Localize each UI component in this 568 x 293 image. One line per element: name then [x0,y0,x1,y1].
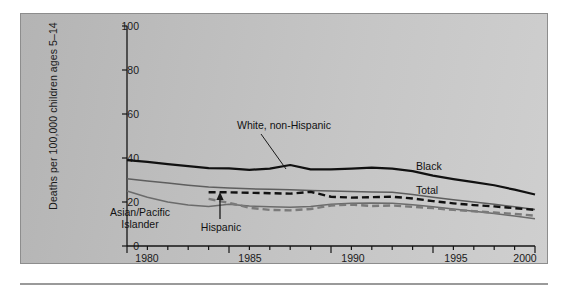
series-line-asian-pacific-islander [209,192,535,210]
footer-divider [20,283,548,285]
annotation-asian-pacific-islander-line1: Asian/Pacific [95,206,185,218]
x-tick-marks [127,246,535,253]
white-non-hispanic-leader-line [261,134,286,169]
figure-container: Deaths per 100,000 children ages 5–14 10… [0,0,568,293]
data-series-group [127,160,535,219]
annotation-asian-pacific-islander: Asian/Pacific Islander [95,206,185,230]
series-line-black [127,160,535,194]
series-line-hispanic [209,199,535,216]
annotation-black: Black [416,160,442,172]
axes [127,26,535,246]
annotation-total: Total [416,184,438,196]
annotation-white-non-hispanic: White, non-Hispanic [237,119,331,131]
annotation-hispanic: Hispanic [191,221,251,233]
chart-panel: Deaths per 100,000 children ages 5–14 10… [20,13,548,264]
annotation-asian-pacific-islander-line2: Islander [95,218,185,230]
